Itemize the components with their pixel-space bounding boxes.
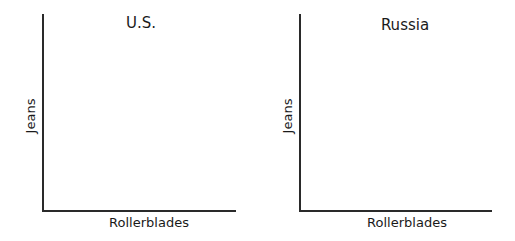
chart-us: U.S. Rollerblades Jeans [0,0,257,241]
y-axis-label: Jeans [280,99,295,134]
y-axis [42,14,44,212]
chart-title: Russia [381,16,429,34]
x-axis [42,210,236,212]
y-axis [299,14,301,212]
x-axis-label: Rollerblades [367,215,447,230]
chart-title: U.S. [126,14,156,32]
y-axis-label: Jeans [23,99,38,134]
x-axis-label: Rollerblades [109,215,189,230]
x-axis [299,210,492,212]
chart-russia: Russia Rollerblades Jeans [256,0,513,241]
